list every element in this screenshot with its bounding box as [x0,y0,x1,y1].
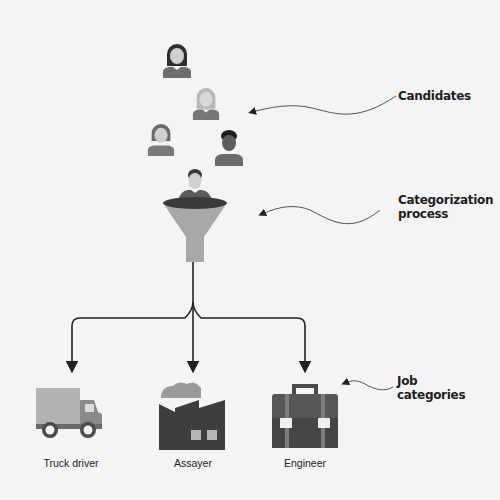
funnel-icon [160,165,230,265]
process-callout: Categorization process [398,193,493,221]
jobs-label-line2: categories [397,388,465,402]
job-label-assayer: Assayer [148,457,238,469]
candidates-callout: Candidates [398,89,471,103]
candidate-woman-dark-icon [161,42,193,78]
jobs-label-line1: Job [397,374,465,388]
candidates-arrow [252,96,396,114]
process-label-line1: Categorization [398,193,493,207]
candidate-woman-medium-icon [146,122,176,156]
truck-icon [36,388,106,442]
candidates-label: Candidates [398,89,471,103]
jobs-callout: Job categories [397,374,465,402]
briefcase-icon [272,384,338,448]
candidate-man-dark-icon [213,128,245,166]
job-label-engineer: Engineer [260,457,350,469]
jobs-arrow [345,381,393,390]
job-label-truck-driver: Truck driver [26,457,116,469]
process-label-line2: process [398,207,493,221]
tree-connector [72,262,305,367]
process-arrow [262,207,380,224]
candidate-woman-light-icon [191,86,221,120]
factory-icon [159,380,227,450]
